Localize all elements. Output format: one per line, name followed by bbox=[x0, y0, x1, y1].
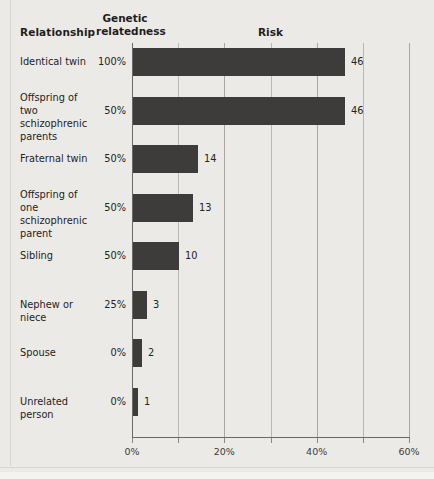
x-tick-10pct bbox=[178, 438, 179, 443]
bar bbox=[133, 388, 138, 416]
bar-value-label: 14 bbox=[204, 153, 216, 164]
page-edge-bottom bbox=[0, 467, 434, 468]
x-tick-60pct bbox=[409, 438, 410, 443]
row-label-line: parents bbox=[20, 130, 96, 143]
bar bbox=[133, 291, 147, 319]
bar-value-label: 3 bbox=[153, 299, 159, 310]
bar bbox=[133, 194, 193, 222]
bar bbox=[133, 145, 198, 173]
row-label-line: Spouse bbox=[20, 346, 96, 359]
x-tick-label-40pct: 40% bbox=[306, 446, 327, 457]
row-label: Sibling bbox=[20, 249, 96, 262]
row-label-line: Unrelated person bbox=[20, 395, 96, 421]
row-label-line: Offspring of two bbox=[20, 91, 96, 117]
genetic-relatedness-value: 50% bbox=[96, 105, 126, 116]
genetic-relatedness-value: 25% bbox=[96, 299, 126, 310]
bar-value-label: 46 bbox=[351, 56, 363, 67]
column-header-relationship: Relationship bbox=[20, 26, 95, 38]
x-tick-20pct bbox=[224, 438, 225, 443]
row-label: Unrelated person bbox=[20, 395, 96, 421]
bar-value-label: 13 bbox=[199, 202, 211, 213]
bar-value-label: 46 bbox=[351, 105, 363, 116]
row-label: Identical twin bbox=[20, 55, 96, 68]
row-label-line: schizophrenic bbox=[20, 117, 96, 130]
row-label: Offspring of twoschizophrenicparents bbox=[20, 91, 96, 143]
bar bbox=[133, 339, 142, 367]
row-label-line: Fraternal twin bbox=[20, 152, 96, 165]
genetic-relatedness-value: 0% bbox=[96, 347, 126, 358]
x-tick-0pct bbox=[132, 438, 133, 443]
row-label-line: parent bbox=[20, 227, 96, 240]
column-header-genetic-line1: Genetic bbox=[96, 12, 154, 25]
row-label-line: Identical twin bbox=[20, 55, 96, 68]
gridline-50pct bbox=[363, 43, 364, 437]
x-tick-label-20pct: 20% bbox=[214, 446, 235, 457]
row-label: Offspring of oneschizophrenicparent bbox=[20, 188, 96, 240]
row-label: Spouse bbox=[20, 346, 96, 359]
row-label-line: Nephew or niece bbox=[20, 298, 96, 324]
genetic-relatedness-value: 50% bbox=[96, 202, 126, 213]
column-header-risk: Risk bbox=[132, 26, 409, 38]
genetic-relatedness-value: 50% bbox=[96, 250, 126, 261]
gridline-60pct bbox=[409, 43, 410, 437]
bar-value-label: 1 bbox=[144, 396, 150, 407]
genetic-relatedness-value: 100% bbox=[96, 56, 126, 67]
bar-value-label: 2 bbox=[148, 347, 154, 358]
x-tick-label-60pct: 60% bbox=[398, 446, 419, 457]
row-label-line: Sibling bbox=[20, 249, 96, 262]
bar bbox=[133, 242, 179, 270]
bar bbox=[133, 97, 345, 125]
page-edge-left bbox=[10, 0, 11, 466]
genetic-relatedness-value: 50% bbox=[96, 153, 126, 164]
row-label-line: Offspring of one bbox=[20, 188, 96, 214]
x-tick-40pct bbox=[317, 438, 318, 443]
x-tick-30pct bbox=[271, 438, 272, 443]
chart-page: Relationship Genetic relatedness Risk 0%… bbox=[0, 0, 434, 479]
row-label: Fraternal twin bbox=[20, 152, 96, 165]
row-label: Nephew or niece bbox=[20, 298, 96, 324]
page-footer-strip bbox=[0, 472, 434, 479]
genetic-relatedness-value: 0% bbox=[96, 396, 126, 407]
x-tick-label-0pct: 0% bbox=[124, 446, 139, 457]
row-label-line: schizophrenic bbox=[20, 214, 96, 227]
bar-value-label: 10 bbox=[185, 250, 197, 261]
x-tick-50pct bbox=[363, 438, 364, 443]
bar bbox=[133, 48, 345, 76]
